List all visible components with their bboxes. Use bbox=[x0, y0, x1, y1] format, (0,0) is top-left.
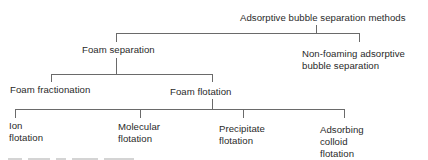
node-molecular-line2: flotation bbox=[118, 133, 160, 145]
connector-to-molecular-flotation bbox=[140, 109, 141, 118]
node-non-foaming-line2: bubble separation bbox=[302, 60, 405, 72]
connector-to-foam-flotation bbox=[212, 74, 213, 82]
connector-to-foam-fractionation bbox=[51, 74, 52, 82]
node-adsorbing-line3: flotation bbox=[320, 148, 364, 160]
node-foam-separation: Foam separation bbox=[82, 44, 155, 56]
connector-root-down bbox=[316, 25, 317, 33]
connector-level2-horizontal bbox=[51, 74, 213, 75]
caption-fragment-icon bbox=[8, 157, 158, 160]
connector-to-adsorbing-colloid-flotation bbox=[344, 109, 345, 118]
node-precipitate-line2: flotation bbox=[219, 135, 265, 147]
node-ion-line2: flotation bbox=[9, 132, 43, 144]
connector-to-non-foaming bbox=[359, 33, 360, 42]
node-foam-fractionation: Foam fractionation bbox=[10, 84, 90, 96]
node-precipitate-line1: Precipitate bbox=[219, 123, 265, 135]
connector-foam-separation-down bbox=[116, 58, 117, 74]
node-adsorbing-line2: colloid bbox=[320, 136, 364, 148]
node-adsorbing-colloid-flotation: Adsorbing colloid flotation bbox=[320, 124, 364, 160]
root-node-adsorptive-bubble-separation-methods: Adsorptive bubble separation methods bbox=[240, 12, 406, 24]
node-non-foaming-line1: Non-foaming adsorptive bbox=[302, 48, 405, 60]
node-ion-line1: Ion bbox=[9, 120, 43, 132]
connector-level3-horizontal bbox=[15, 109, 345, 110]
connector-to-foam-separation bbox=[116, 33, 117, 42]
node-adsorbing-line1: Adsorbing bbox=[320, 124, 364, 136]
node-ion-flotation: Ion flotation bbox=[9, 120, 43, 144]
node-molecular-flotation: Molecular flotation bbox=[118, 121, 160, 145]
figure-caption-clipped bbox=[8, 154, 158, 160]
connector-foam-flotation-down bbox=[212, 99, 213, 109]
node-precipitate-flotation: Precipitate flotation bbox=[219, 123, 265, 147]
connector-level1-horizontal bbox=[116, 33, 360, 34]
connector-to-ion-flotation bbox=[15, 109, 16, 118]
node-foam-flotation: Foam flotation bbox=[170, 86, 232, 98]
node-molecular-line1: Molecular bbox=[118, 121, 160, 133]
connector-to-precipitate-flotation bbox=[243, 109, 244, 118]
node-non-foaming-adsorptive-bubble-separation: Non-foaming adsorptive bubble separation bbox=[302, 48, 405, 72]
